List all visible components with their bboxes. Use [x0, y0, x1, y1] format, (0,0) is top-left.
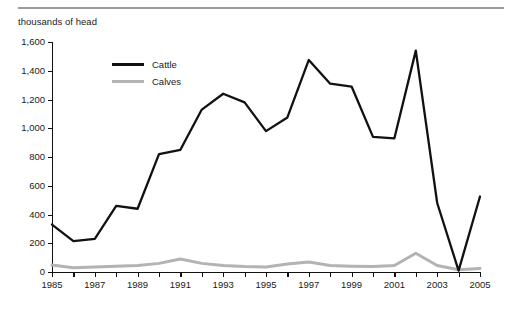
x-axis-tick-label: 2003 [427, 280, 448, 290]
x-axis-tick-label: 1993 [213, 280, 234, 290]
y-axis-tick-label: 1,000 [21, 124, 45, 134]
x-axis-tick [480, 272, 481, 277]
y-axis-tick-label: 200 [29, 239, 45, 249]
legend-item-cattle: Cattle [112, 56, 208, 73]
legend-label-calves: Calves [152, 73, 181, 90]
legend-item-calves: Calves [112, 73, 208, 90]
chart-legend: Cattle Calves [112, 56, 208, 90]
y-axis-tick-label: 1,600 [21, 37, 45, 47]
series-line-calves [52, 253, 480, 270]
line-swatch-icon-calves [112, 80, 144, 83]
y-axis-tick-label: 600 [29, 181, 45, 191]
x-axis-tick-label: 1987 [84, 280, 105, 290]
y-axis-tick-label: 1,200 [21, 95, 45, 105]
x-axis-tick-label: 2005 [469, 280, 490, 290]
x-axis-tick-label: 1991 [170, 280, 191, 290]
x-axis-tick-label: 1999 [341, 280, 362, 290]
x-axis-tick-label: 1997 [298, 280, 319, 290]
top-divider-rule [18, 7, 504, 9]
x-axis-tick-label: 2001 [384, 280, 405, 290]
x-axis-tick-label: 1985 [41, 280, 62, 290]
y-axis-tick-label: 800 [29, 152, 45, 162]
x-axis-tick-label: 1995 [255, 280, 276, 290]
legend-label-cattle: Cattle [152, 56, 177, 73]
line-swatch-icon-cattle [112, 63, 144, 66]
y-axis-tick-label: 1,400 [21, 66, 45, 76]
x-axis-tick-label: 1989 [127, 280, 148, 290]
y-axis-tick-label: 400 [29, 210, 45, 220]
y-axis-unit-caption: thousands of head [18, 16, 97, 27]
chart-figure: thousands of head 02004006008001,0001,20… [0, 0, 510, 315]
y-axis-tick-label: 0 [40, 267, 45, 277]
